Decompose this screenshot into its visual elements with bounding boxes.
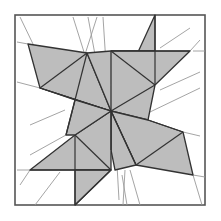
crease-pattern-diagram <box>0 0 221 221</box>
center-point <box>110 110 112 112</box>
top-right-upper <box>111 51 190 120</box>
